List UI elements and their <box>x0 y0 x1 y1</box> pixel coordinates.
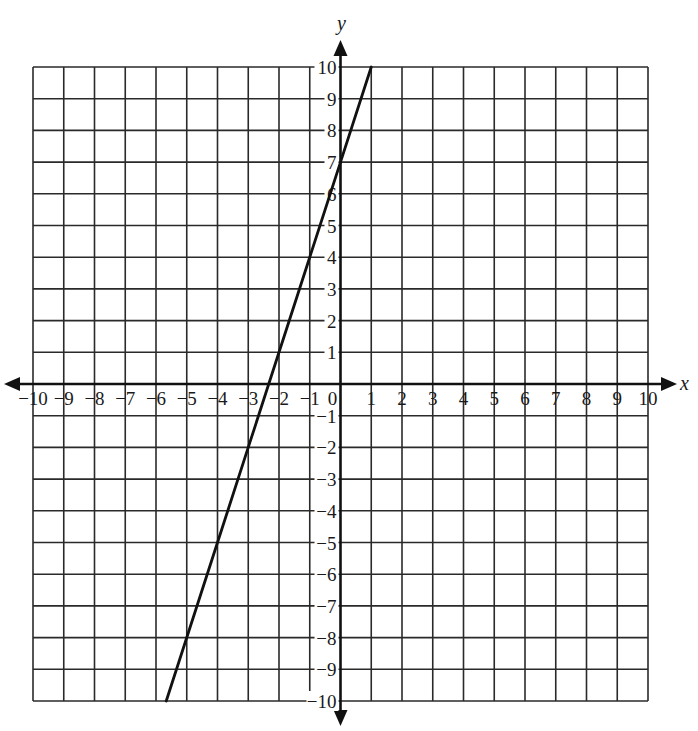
y-tick-label: −6 <box>316 564 336 585</box>
x-tick-label: −2 <box>269 388 289 409</box>
x-tick-label: −7 <box>115 388 135 409</box>
x-axis-label: x <box>679 372 689 394</box>
x-tick-label: 5 <box>490 388 500 409</box>
y-tick-label: 4 <box>327 247 337 268</box>
x-tick-label: −9 <box>54 388 74 409</box>
y-tick-label: −10 <box>307 691 337 712</box>
y-tick-label: 5 <box>327 216 337 237</box>
x-tick-label: 4 <box>459 388 469 409</box>
y-tick-label: 3 <box>327 279 337 300</box>
chart-svg: −10−9−8−7−6−5−4−3−2−1123456789100−10−9−8… <box>0 0 698 731</box>
y-tick-label: 9 <box>327 89 337 110</box>
x-tick-label: 1 <box>367 388 377 409</box>
y-tick-label: −4 <box>316 501 337 522</box>
y-tick-label: 1 <box>327 342 337 363</box>
axes <box>4 40 677 726</box>
x-tick-label: 7 <box>551 388 561 409</box>
coordinate-plane-chart: −10−9−8−7−6−5−4−3−2−1123456789100−10−9−8… <box>0 0 698 731</box>
y-axis-down-arrow-icon <box>334 710 348 726</box>
y-tick-label: 2 <box>327 311 337 332</box>
y-tick-label: −1 <box>316 406 336 427</box>
y-tick-label: −9 <box>316 659 336 680</box>
x-tick-label: 3 <box>428 388 438 409</box>
y-tick-label: −8 <box>316 628 336 649</box>
y-tick-label: 10 <box>318 57 337 78</box>
x-tick-label: −4 <box>207 388 228 409</box>
x-axis-right-arrow-icon <box>661 377 677 391</box>
x-tick-label: −6 <box>146 388 166 409</box>
y-tick-label: −7 <box>316 596 336 617</box>
y-tick-label: −3 <box>316 469 336 490</box>
x-tick-label: −3 <box>238 388 258 409</box>
x-tick-label: 2 <box>397 388 407 409</box>
y-axis-label: y <box>335 12 346 35</box>
x-tick-label: 8 <box>582 388 592 409</box>
x-tick-label: −10 <box>18 388 48 409</box>
y-axis-up-arrow-icon <box>334 40 348 56</box>
y-tick-label: 8 <box>327 120 337 141</box>
y-tick-label: 7 <box>327 152 337 173</box>
x-tick-label: 6 <box>520 388 530 409</box>
x-tick-label: −5 <box>177 388 197 409</box>
x-tick-label: 10 <box>639 388 658 409</box>
x-tick-label: −8 <box>84 388 104 409</box>
x-tick-label: 9 <box>613 388 623 409</box>
y-tick-label: −5 <box>316 533 336 554</box>
y-tick-label: −2 <box>316 437 336 458</box>
